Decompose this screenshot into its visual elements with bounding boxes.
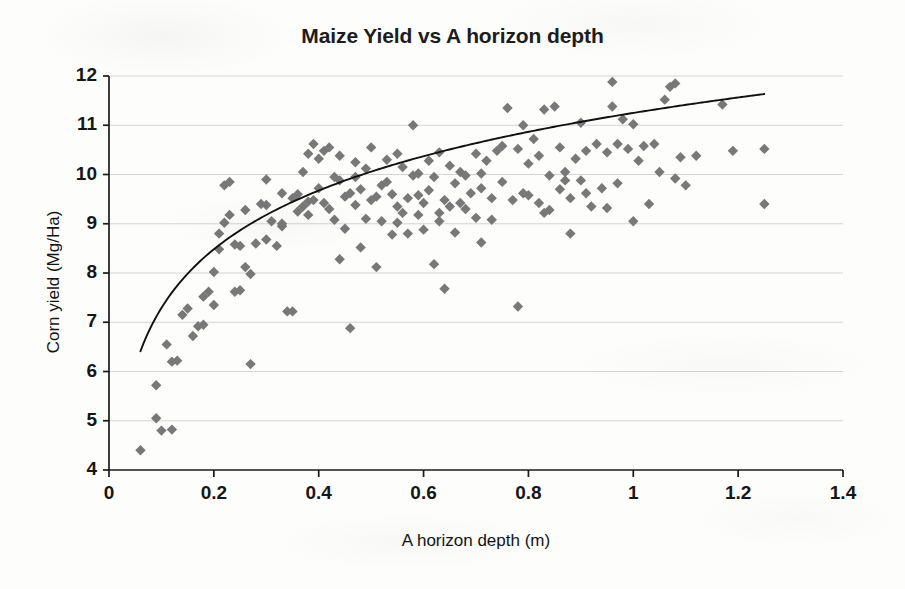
data-point-marker — [287, 306, 297, 316]
data-point-marker — [528, 134, 538, 144]
data-point-marker — [476, 237, 486, 247]
data-point-marker — [487, 193, 497, 203]
data-point-marker — [214, 228, 224, 238]
data-point-marker — [188, 331, 198, 341]
data-point-marker — [549, 101, 559, 111]
data-point-marker — [576, 175, 586, 185]
y-tick-label: 12 — [51, 64, 97, 86]
x-tick-label: 1.4 — [813, 482, 873, 504]
data-point-marker — [633, 156, 643, 166]
data-point-marker — [476, 168, 486, 178]
data-point-marker — [429, 259, 439, 269]
data-point-marker — [623, 144, 633, 154]
chart-page: Maize Yield vs A horizon depth 456789101… — [0, 0, 905, 589]
data-point-marker — [602, 203, 612, 213]
data-point-marker — [167, 424, 177, 434]
y-tick-label: 4 — [51, 458, 97, 480]
data-point-marker — [654, 167, 664, 177]
data-point-marker — [450, 227, 460, 237]
data-point-marker — [544, 170, 554, 180]
data-point-marker — [361, 214, 371, 224]
data-point-marker — [565, 193, 575, 203]
x-tick-label: 0.2 — [184, 482, 244, 504]
data-point-marker — [314, 154, 324, 164]
x-tick-label: 1 — [603, 482, 663, 504]
data-point-marker — [298, 167, 308, 177]
data-point-marker — [209, 267, 219, 277]
data-point-marker — [408, 120, 418, 130]
data-point-marker — [586, 201, 596, 211]
data-point-marker — [649, 139, 659, 149]
data-point-marker — [151, 380, 161, 390]
data-point-marker — [476, 183, 486, 193]
data-point-marker — [366, 142, 376, 152]
chart-title: Maize Yield vs A horizon depth — [0, 24, 905, 48]
data-point-marker — [424, 185, 434, 195]
data-point-marker — [565, 228, 575, 238]
data-point-marker — [612, 139, 622, 149]
data-point-marker — [539, 104, 549, 114]
data-point-marker — [644, 199, 654, 209]
data-point-marker — [413, 190, 423, 200]
y-axis-title: Corn yield (Mg/Ha) — [44, 142, 64, 422]
data-point-marker — [508, 195, 518, 205]
data-point-marker — [219, 218, 229, 228]
data-point-marker — [376, 216, 386, 226]
data-point-marker — [245, 359, 255, 369]
data-point-marker — [161, 339, 171, 349]
data-point-marker — [240, 205, 250, 215]
data-point-marker — [691, 151, 701, 161]
data-point-marker — [728, 146, 738, 156]
data-point-marker — [355, 184, 365, 194]
data-point-marker — [434, 216, 444, 226]
data-point-marker — [403, 193, 413, 203]
data-point-marker — [266, 216, 276, 226]
data-point-marker — [272, 241, 282, 251]
data-point-marker — [261, 174, 271, 184]
data-point-marker — [418, 224, 428, 234]
data-point-marker — [759, 144, 769, 154]
data-point-marker — [156, 425, 166, 435]
data-point-marker — [345, 323, 355, 333]
data-point-marker — [628, 119, 638, 129]
data-point-marker — [429, 172, 439, 182]
data-point-marker — [303, 149, 313, 159]
x-tick-label: 0 — [79, 482, 139, 504]
data-point-marker — [303, 210, 313, 220]
data-point-marker — [403, 228, 413, 238]
data-point-marker — [334, 151, 344, 161]
data-point-marker — [581, 146, 591, 156]
data-point-marker — [224, 210, 234, 220]
data-point-marker — [392, 218, 402, 228]
data-point-marker — [513, 301, 523, 311]
data-point-marker — [681, 180, 691, 190]
data-point-marker — [387, 189, 397, 199]
data-point-marker — [261, 234, 271, 244]
data-point-marker — [639, 141, 649, 151]
trendline — [140, 94, 764, 351]
data-point-marker — [308, 139, 318, 149]
data-point-marker — [387, 229, 397, 239]
data-point-marker — [607, 101, 617, 111]
data-point-marker — [350, 200, 360, 210]
data-point-marker — [450, 178, 460, 188]
data-point-marker — [251, 238, 261, 248]
data-point-marker — [277, 188, 287, 198]
data-point-marker — [418, 198, 428, 208]
data-point-marker — [607, 77, 617, 87]
data-point-marker — [340, 223, 350, 233]
x-tick-label: 0.8 — [498, 482, 558, 504]
data-point-marker — [660, 94, 670, 104]
data-point-marker — [581, 188, 591, 198]
data-point-marker — [371, 262, 381, 272]
data-point-marker — [560, 175, 570, 185]
data-point-marker — [518, 120, 528, 130]
data-point-marker — [534, 198, 544, 208]
data-point-marker — [481, 156, 491, 166]
data-point-marker — [439, 284, 449, 294]
data-point-marker — [382, 155, 392, 165]
y-tick-label: 11 — [51, 113, 97, 135]
data-point-marker — [355, 242, 365, 252]
data-point-marker — [534, 151, 544, 161]
data-point-marker — [523, 158, 533, 168]
